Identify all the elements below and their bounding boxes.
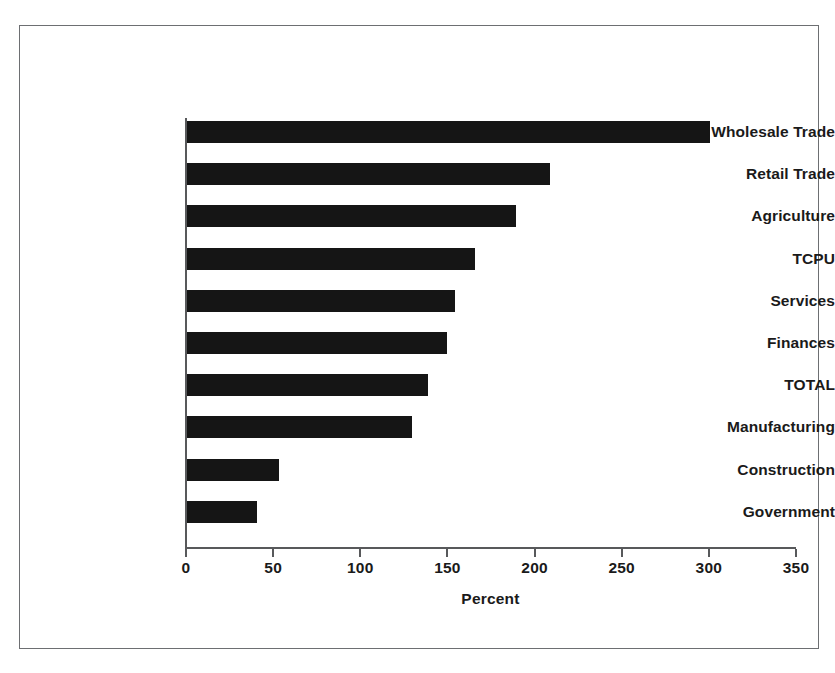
x-tick-label: 50	[264, 559, 282, 577]
category-label: Agriculture	[660, 207, 835, 225]
x-tick-mark	[359, 549, 361, 557]
x-tick-mark	[446, 549, 448, 557]
category-label: Manufacturing	[660, 418, 835, 436]
category-label: Services	[660, 292, 835, 310]
x-tick-mark	[272, 549, 274, 557]
x-tick-label: 0	[182, 559, 191, 577]
category-label: Wholesale Trade	[660, 123, 835, 141]
bar	[187, 332, 447, 354]
bar	[187, 459, 279, 481]
bar	[187, 501, 257, 523]
category-label: Retail Trade	[660, 165, 835, 183]
x-axis-title: Percent	[185, 590, 796, 608]
x-tick-label: 350	[783, 559, 809, 577]
x-tick-label: 300	[696, 559, 722, 577]
category-label: Finances	[660, 334, 835, 352]
bar	[187, 121, 710, 143]
x-axis-line	[185, 547, 796, 549]
bar	[187, 248, 475, 270]
category-label: TCPU	[660, 250, 835, 268]
x-tick-mark	[185, 549, 187, 557]
figure: 050100150200250300350 Wholesale TradeRet…	[0, 0, 835, 673]
x-tick-label: 250	[608, 559, 634, 577]
category-label: TOTAL	[660, 376, 835, 394]
x-tick-mark	[708, 549, 710, 557]
category-label: Government	[660, 503, 835, 521]
bar-chart-plot: 050100150200250300350 Wholesale TradeRet…	[0, 0, 835, 673]
x-tick-mark	[795, 549, 797, 557]
x-tick-mark	[621, 549, 623, 557]
bar	[187, 163, 550, 185]
bar	[187, 205, 516, 227]
category-label: Construction	[660, 461, 835, 479]
bar	[187, 416, 412, 438]
x-tick-label: 200	[521, 559, 547, 577]
x-tick-label: 150	[434, 559, 460, 577]
bar	[187, 290, 455, 312]
x-tick-mark	[534, 549, 536, 557]
x-tick-label: 100	[347, 559, 373, 577]
bar	[187, 374, 428, 396]
